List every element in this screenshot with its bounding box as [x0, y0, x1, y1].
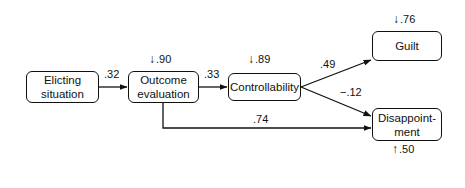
residual-value: .50: [399, 143, 414, 155]
node-label: Guilt: [395, 39, 419, 53]
node-label: Outcome: [137, 73, 189, 87]
residual-value: .76: [400, 13, 415, 25]
coef-eliciting-outcome: .32: [104, 68, 119, 80]
node-disappointment: Disappoint-ment: [372, 108, 442, 141]
coef-outcome-disappointment: .74: [253, 113, 268, 125]
residual-guilt: ↓ .76: [393, 12, 415, 26]
node-guilt: Guilt: [372, 31, 442, 61]
arrow-controllability-guilt: [301, 60, 371, 87]
node-label: Controllability: [230, 80, 299, 94]
node-label: situation: [41, 87, 84, 101]
node-label: Elicting: [41, 73, 84, 87]
up-arrow-icon: ↑: [392, 142, 398, 156]
residual-value: .90: [156, 53, 171, 65]
node-label: evaluation: [137, 87, 189, 101]
node-eliciting-situation: Elictingsituation: [26, 71, 99, 103]
node-outcome-evaluation: Outcomeevaluation: [128, 71, 199, 103]
down-arrow-icon: ↓: [248, 52, 254, 66]
residual-outcome: ↓ .90: [149, 52, 171, 66]
node-controllability: Controllability: [228, 73, 301, 101]
residual-controllability: ↓ .89: [248, 52, 270, 66]
coef-controllability-guilt: .49: [320, 58, 335, 70]
residual-disappointment: ↑ .50: [392, 142, 414, 156]
node-label: Disappoint-: [378, 111, 436, 125]
down-arrow-icon: ↓: [393, 12, 399, 26]
coef-controllability-disappointment: −.12: [340, 86, 362, 98]
node-label: ment: [378, 125, 436, 139]
residual-value: .89: [255, 53, 270, 65]
coef-outcome-controllability: .33: [204, 68, 219, 80]
down-arrow-icon: ↓: [149, 52, 155, 66]
